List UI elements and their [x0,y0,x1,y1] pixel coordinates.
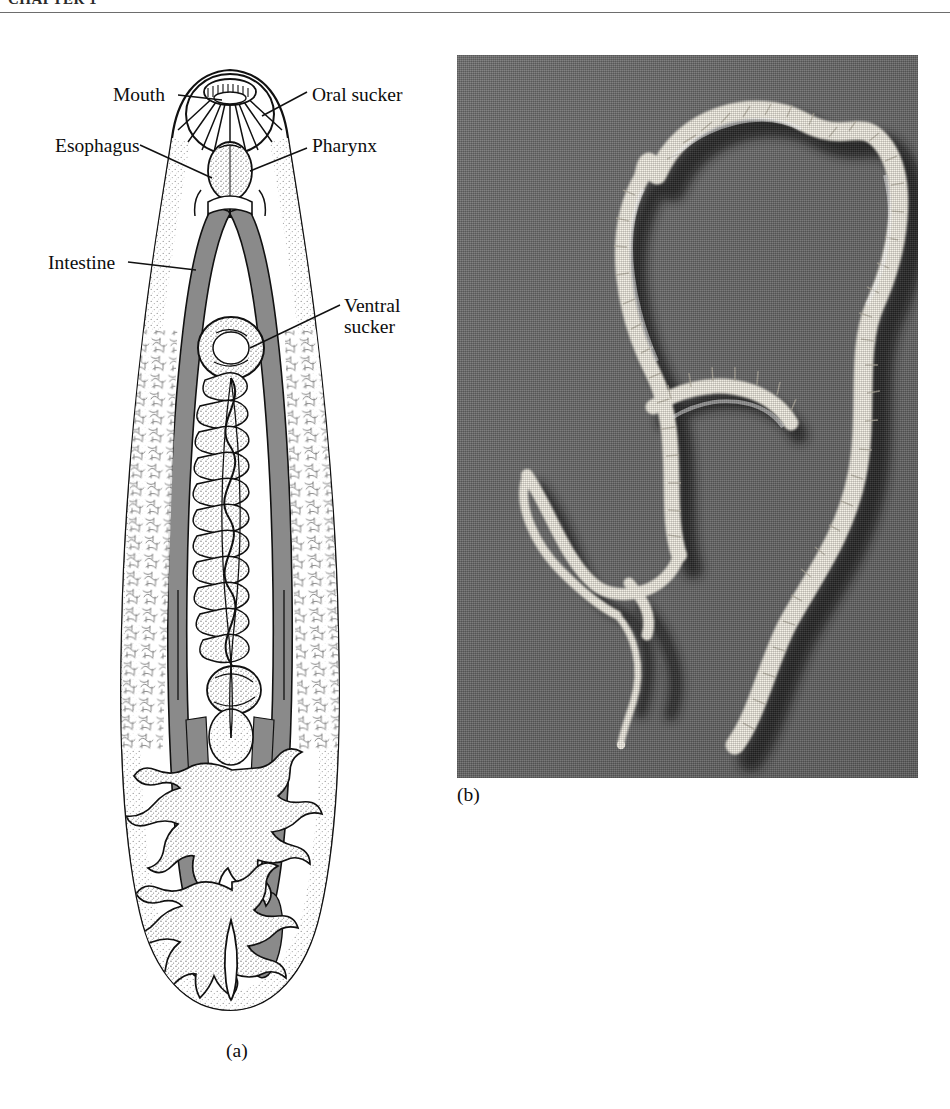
label-oral-sucker: Oral sucker [312,84,402,105]
running-head: CHAPTER 1 [8,0,97,8]
scolex [617,741,625,749]
label-ventral-sucker: Ventral sucker [344,295,444,337]
ovary [207,666,261,714]
caption-a: (a) [226,1040,248,1062]
pharynx [208,142,252,200]
panel-b-tapeworm-photo [457,55,918,778]
label-ventral-sucker-line1: Ventral [344,295,400,316]
tapeworm-specimen [457,55,918,778]
textbook-figure-page: CHAPTER 1 [0,0,950,1109]
label-esophagus: Esophagus [55,135,140,156]
label-mouth: Mouth [113,84,165,105]
tapeworm-photograph [457,55,918,778]
header-rule [0,12,950,13]
fluke-anatomy-drawing [0,30,460,1030]
panel-a-fluke-diagram: Mouth Oral sucker Esophagus Pharynx Inte… [0,30,460,1050]
label-pharynx: Pharynx [312,135,377,156]
label-ventral-sucker-line2: sucker [344,316,395,337]
caption-b: (b) [457,784,480,806]
label-intestine: Intestine [48,252,115,273]
ventral-sucker [198,317,264,379]
